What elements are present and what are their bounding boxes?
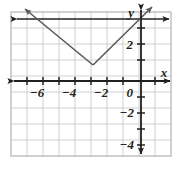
y-tick-label--4: −4 bbox=[120, 137, 135, 152]
origin-label: 0 bbox=[127, 85, 134, 100]
coordinate-grid-svg: −6 −4 −2 0 2 −2 −4 y x bbox=[0, 0, 176, 169]
y-tick-label--2: −2 bbox=[120, 105, 135, 120]
x-tick-label--4: −4 bbox=[62, 85, 77, 100]
x-axis-label: x bbox=[160, 65, 168, 80]
x-tick-label--2: −2 bbox=[94, 85, 109, 100]
graph-figure: −6 −4 −2 0 2 −2 −4 y x bbox=[0, 0, 176, 169]
y-tick-label-2: 2 bbox=[126, 37, 134, 52]
x-tick-label--6: −6 bbox=[30, 85, 45, 100]
y-axis-label: y bbox=[126, 5, 134, 20]
